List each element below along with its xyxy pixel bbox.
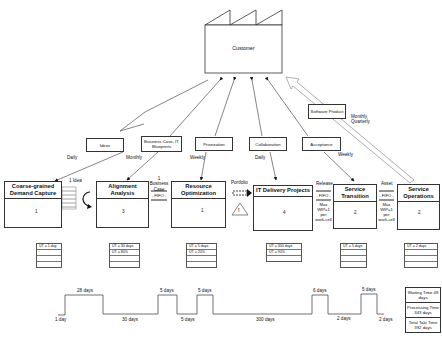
- total-takt-time: Total Takt Time 392 days: [406, 318, 440, 332]
- timeline-upper-2: 5 days: [160, 288, 174, 293]
- timeline-upper-4: 6 days: [313, 288, 327, 293]
- frequency-business-case: Monthly: [126, 155, 142, 160]
- process-coarse-grained-demand-capture[interactable]: Coarse-grained Demand Capture 1: [4, 181, 62, 228]
- operator-count: 2: [418, 210, 421, 215]
- data-box-alignment-analysis: UT = 30 daysUT = 80%: [109, 243, 140, 268]
- timeline-lower-1: 1 day: [55, 317, 66, 322]
- info-box-business-case: Business Case, IT Blueprints: [141, 136, 182, 152]
- process-title: Service Operations: [398, 185, 439, 202]
- diagram-canvas: [0, 0, 442, 351]
- wip-limit-label-1: Max WIP=1 per work-cell: [315, 202, 332, 222]
- process-it-delivery-projects[interactable]: IT Delivery Projects 4: [253, 185, 313, 231]
- customer-label: Customer: [205, 46, 282, 51]
- portfolio-label: Portfolio: [231, 180, 248, 185]
- frequency-software-product: Monthly, Quarterly: [351, 114, 373, 125]
- inventory-stack-icon: [62, 187, 76, 209]
- refresh-cycle-icon: [83, 192, 92, 209]
- timeline-upper-5: 5 days: [362, 287, 376, 292]
- data-box-service-operations: UT = 2 days: [404, 243, 438, 268]
- fifo-label-2: - FIFO -: [316, 193, 331, 198]
- operator-count: 4: [283, 210, 286, 215]
- wip-limit-label-2: Max WIP=1 per work-cell: [378, 202, 395, 222]
- processing-time: Processing Time 343 days: [406, 303, 440, 318]
- warning-triangle-icon: [232, 203, 248, 215]
- timeline-lower-3: 5 days: [181, 317, 195, 322]
- customer-factory-icon: [205, 10, 282, 73]
- push-arrow-icon: [233, 189, 252, 197]
- timeline-upper-1: 28 days: [77, 288, 93, 293]
- info-box-acceptance: Acceptance: [302, 137, 341, 151]
- operator-count: 2: [354, 210, 357, 215]
- frequency-ideas: Daily: [67, 155, 77, 160]
- info-box-ideas: Ideas: [86, 138, 124, 152]
- frequency-collaboration: Daily: [255, 155, 265, 160]
- process-title: Alignment Analysis: [97, 182, 148, 199]
- release-label: Release: [316, 181, 333, 186]
- data-box-it-delivery: UT = 300 daysUT = 90%: [266, 243, 302, 262]
- timeline-lower-4: 300 days: [256, 317, 275, 322]
- process-service-operations[interactable]: Service Operations 2: [397, 184, 440, 230]
- operator-count: 1: [201, 208, 204, 213]
- asset-label: Asset: [381, 181, 393, 186]
- process-resource-optimization[interactable]: Resource Optimization 1: [171, 181, 226, 228]
- timeline-ladder: [58, 294, 384, 315]
- fifo-label-1: - FIFO -: [151, 193, 167, 198]
- operator-count: 1: [35, 209, 38, 214]
- process-alignment-analysis[interactable]: Alignment Analysis 3: [96, 181, 149, 228]
- data-box-resource-optimization: UT = 5 daysUT = 20%: [186, 243, 217, 268]
- info-box-priorization: Priorization: [195, 137, 233, 151]
- process-title: Service Transition: [334, 185, 376, 202]
- data-box-coarse-grained: UT = 1 day: [36, 243, 62, 268]
- warning-mark: !: [238, 208, 240, 213]
- timeline-lower-6: 2 days: [379, 317, 393, 322]
- inventory-label: 1 Idea: [69, 178, 82, 183]
- process-title: Coarse-grained Demand Capture: [5, 182, 61, 199]
- timeline-upper-3: 5 days: [198, 288, 212, 293]
- operator-count: 3: [122, 209, 125, 214]
- data-box-service-transition: UT = 5 days: [340, 243, 367, 268]
- lead-time-summary: Waiting Time 48 days Processing Time 343…: [405, 287, 441, 333]
- timeline-lower-5: 2 days: [337, 316, 351, 321]
- timeline-lower-2: 30 days: [122, 317, 138, 322]
- info-box-collaboration: Collaboration: [249, 137, 287, 151]
- info-box-software-product: Software Product: [308, 104, 346, 119]
- process-title: IT Delivery Projects: [254, 186, 312, 197]
- process-title: Resource Optimization: [172, 182, 225, 199]
- frequency-acceptance: Weekly: [338, 152, 353, 157]
- fifo-label-3: - FIFO -: [379, 193, 394, 198]
- process-service-transition[interactable]: Service Transition 2: [333, 184, 377, 229]
- shipment-arrow: [286, 77, 414, 183]
- frequency-priorization: Weekly: [190, 155, 205, 160]
- business-case-label: 1 Business Case: [148, 176, 170, 192]
- waiting-time: Waiting Time 48 days: [406, 288, 440, 303]
